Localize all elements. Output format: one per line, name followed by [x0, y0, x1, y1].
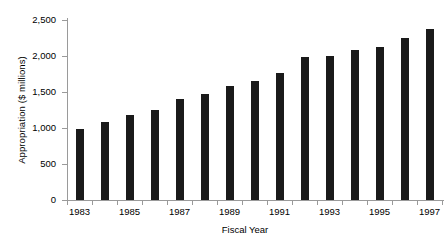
bar	[126, 115, 134, 200]
bar	[426, 29, 434, 200]
bar-chart: Appropriation ($ millions) 05001,0001,50…	[0, 0, 448, 245]
x-tick-mark	[117, 201, 118, 205]
bar	[176, 99, 184, 200]
y-tick-label: 0	[20, 195, 56, 205]
x-tick-label: 1991	[269, 206, 290, 218]
x-tick-mark	[217, 201, 218, 205]
x-tick-mark	[442, 201, 443, 205]
x-tick-mark	[317, 201, 318, 205]
x-tick-mark	[292, 201, 293, 205]
x-tick-mark	[192, 201, 193, 205]
x-tick-mark	[267, 201, 268, 205]
x-tick-mark	[67, 201, 68, 205]
y-tick-label: 1,000	[20, 123, 56, 133]
x-tick-mark	[142, 201, 143, 205]
x-tick-mark	[367, 201, 368, 205]
x-tick-label: 1993	[319, 206, 340, 218]
bar	[226, 86, 234, 200]
x-tick-mark	[342, 201, 343, 205]
x-tick-label: 1987	[169, 206, 190, 218]
bars-layer	[67, 20, 442, 200]
x-tick-label: 1989	[219, 206, 240, 218]
y-tick-label: 1,500	[20, 87, 56, 97]
bar	[201, 94, 209, 200]
x-tick-label: 1997	[419, 206, 440, 218]
x-axis-tick-labels: 19831985198719891991199319951997	[0, 206, 448, 220]
x-tick-label: 1983	[69, 206, 90, 218]
bar	[251, 81, 259, 200]
bar	[351, 50, 359, 200]
x-tick-label: 1985	[119, 206, 140, 218]
bar	[301, 57, 309, 200]
bar	[76, 129, 84, 200]
x-tick-mark	[92, 201, 93, 205]
bar	[376, 47, 384, 200]
x-tick-mark	[392, 201, 393, 205]
x-tick-mark	[167, 201, 168, 205]
bar	[276, 73, 284, 200]
x-tick-mark	[417, 201, 418, 205]
bar	[401, 38, 409, 200]
y-tick-label: 500	[20, 159, 56, 169]
y-tick-label: 2,500	[20, 15, 56, 25]
bar	[326, 56, 334, 200]
x-tick-mark	[242, 201, 243, 205]
x-tick-label: 1995	[369, 206, 390, 218]
x-axis-title: Fiscal Year	[0, 224, 448, 236]
bar	[151, 110, 159, 200]
bar	[101, 122, 109, 200]
y-tick-label: 2,000	[20, 51, 56, 61]
x-axis-line	[62, 200, 444, 201]
